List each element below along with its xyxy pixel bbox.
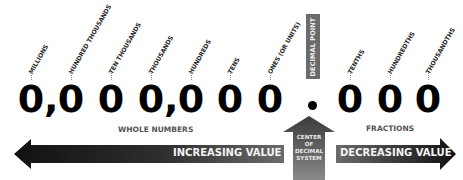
digit-thousands: 0: [136, 80, 166, 118]
center-line-2: OF: [293, 141, 325, 148]
digit-tens: 0: [215, 80, 245, 118]
place-label-ten-thousands: TEN THOUSANDS: [107, 21, 142, 75]
digit-hundred-thousands: 0: [56, 80, 86, 118]
center-line-3: DECIMAL: [293, 148, 325, 155]
digit-tenths: 0: [335, 80, 365, 118]
center-line-1: CENTER: [293, 134, 325, 141]
digit-ones: 0: [255, 80, 285, 118]
place-label-tens: TENS: [226, 56, 241, 75]
digit-hundreds: 0: [176, 80, 206, 118]
place-label-tenths: TENTHS: [346, 48, 366, 75]
place-label-millions: MILLIONS: [27, 43, 49, 75]
place-label-thousandths: THOUSANDTHS: [424, 26, 456, 75]
decimal-point-label: DECIMAL POINT: [309, 17, 317, 76]
decreasing-value-label: DECREASING VALUE: [340, 147, 452, 158]
place-label-hundreds: HUNDREDS: [187, 38, 212, 75]
whole-numbers-label: WHOLE NUMBERS: [118, 125, 193, 134]
fractions-label: FRACTIONS: [366, 124, 414, 133]
place-label-thousands: THOUSANDS: [147, 34, 174, 75]
increasing-value-label: INCREASING VALUE: [173, 147, 281, 158]
digit-hundredths: 0: [375, 80, 405, 118]
place-label-ones: ONES (OR UNITS): [266, 21, 301, 75]
digit-millions: 0: [16, 80, 46, 118]
digit-ten-thousands: 0: [96, 80, 126, 118]
place-label-hundredths: HUNDREDTHS: [386, 30, 416, 75]
decimal-point-label-bar: DECIMAL POINT: [306, 14, 320, 79]
decimal-point-dot: [308, 101, 317, 110]
digit-thousandths: 0: [413, 80, 443, 118]
center-line-4: SYSTEM: [293, 155, 325, 162]
center-of-decimal-system-label: CENTER OF DECIMAL SYSTEM: [293, 134, 325, 162]
place-label-hundred-thousands: HUNDRED THOUSANDS: [67, 3, 112, 75]
